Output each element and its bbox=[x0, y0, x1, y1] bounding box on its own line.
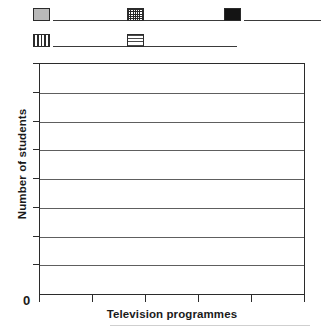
legend-swatch-cross-hatch-grid-icon bbox=[127, 8, 144, 21]
gridline-y1 bbox=[40, 265, 304, 266]
legend-swatch-solid-black-icon bbox=[224, 8, 241, 21]
gridline-y6 bbox=[40, 122, 304, 123]
legend-swatch-horizontal-stripes-icon bbox=[127, 34, 144, 47]
y-axis-tick-0 bbox=[33, 264, 40, 265]
y-axis-label: Number of students bbox=[16, 99, 28, 229]
bar-chart: Number of students 0 Television programm… bbox=[0, 58, 320, 329]
gridline-y7 bbox=[40, 93, 304, 94]
x-axis-label: Television programmes bbox=[39, 308, 305, 320]
gridline-y2 bbox=[40, 237, 304, 238]
page-footer-rule bbox=[110, 325, 310, 326]
gridline-y5 bbox=[40, 150, 304, 151]
plot-area[interactable] bbox=[39, 63, 305, 295]
x-axis-tick-3 bbox=[198, 295, 199, 302]
gridline-y3 bbox=[40, 208, 304, 209]
y-axis-tick-1 bbox=[33, 236, 40, 237]
y-axis-tick-5 bbox=[33, 121, 40, 122]
x-axis-tick-5 bbox=[304, 295, 305, 302]
legend-blank-line-5[interactable] bbox=[147, 46, 237, 47]
x-axis-tick-0 bbox=[39, 295, 40, 302]
gridline-y4 bbox=[40, 179, 304, 180]
x-axis-tick-2 bbox=[145, 295, 146, 302]
legend-blank-line-3[interactable] bbox=[244, 20, 321, 21]
x-axis-tick-4 bbox=[251, 295, 252, 302]
y-axis-tick-3 bbox=[33, 178, 40, 179]
y-axis-tick-4 bbox=[33, 149, 40, 150]
y-axis-tick-2 bbox=[33, 207, 40, 208]
y-axis-tick-6 bbox=[33, 92, 40, 93]
chart-legend bbox=[0, 0, 320, 58]
y-axis-origin-label: 0 bbox=[23, 294, 30, 307]
x-axis-tick-1 bbox=[92, 295, 93, 302]
legend-swatch-solid-light-gray-icon bbox=[33, 8, 50, 21]
legend-swatch-vertical-stripes-icon bbox=[33, 34, 50, 47]
y-axis-tick-7 bbox=[33, 63, 40, 64]
